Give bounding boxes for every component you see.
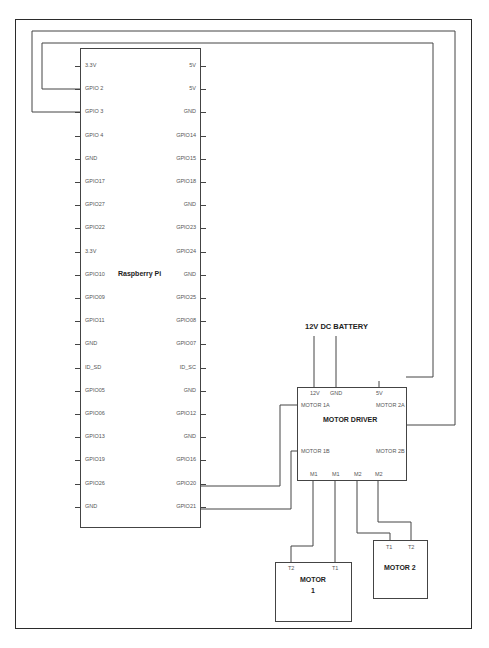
pi-left-pin-tick xyxy=(75,368,80,369)
motor2-terminal-t2: T2 xyxy=(408,545,414,551)
pi-left-pin: GPIO27 xyxy=(85,202,105,208)
pi-left-pin: GND xyxy=(85,504,97,510)
motor1-label-line1: MOTOR xyxy=(300,576,326,583)
md-pin-m2-a: M2 xyxy=(354,472,362,478)
pi-right-pin: GPIO18 xyxy=(176,179,196,185)
pi-left-pin-tick xyxy=(75,205,80,206)
pi-left-pin: GPIO19 xyxy=(85,457,105,463)
pi-left-pin: GPIO06 xyxy=(85,411,105,417)
pi-right-pin: GPIO21 xyxy=(176,504,196,510)
pi-right-pin: GPIO24 xyxy=(176,249,196,255)
pi-left-pin-tick xyxy=(75,507,80,508)
pi-right-pin-tick xyxy=(201,437,206,438)
battery-label: 12V DC BATTERY xyxy=(305,322,368,331)
pi-left-pin: GPIO17 xyxy=(85,179,105,185)
pi-left-pin-tick xyxy=(75,437,80,438)
pi-left-pin-tick xyxy=(75,136,80,137)
pi-left-pin-tick xyxy=(75,460,80,461)
pi-right-pin: GPIO16 xyxy=(176,457,196,463)
pi-left-pin-tick xyxy=(75,321,80,322)
pi-left-pin-tick xyxy=(75,228,80,229)
pi-left-pin-tick xyxy=(75,275,80,276)
raspberry-pi-label: Raspberry Pi xyxy=(118,270,161,277)
pi-left-pin: 3.3V xyxy=(85,63,96,69)
pi-right-pin: GND xyxy=(184,388,196,394)
pi-right-pin-tick xyxy=(201,368,206,369)
pi-right-pin-tick xyxy=(201,321,206,322)
md-pin-gnd: GND xyxy=(330,391,342,397)
pi-left-pin-tick xyxy=(75,89,80,90)
pi-right-pin: GND xyxy=(184,434,196,440)
pi-right-pin-tick xyxy=(201,414,206,415)
pi-right-pin-tick xyxy=(201,391,206,392)
pi-left-pin: GND xyxy=(85,341,97,347)
pi-right-pin-tick xyxy=(201,344,206,345)
md-pin-m1-b: M1 xyxy=(332,472,340,478)
pi-left-pin: GPIO 2 xyxy=(85,86,103,92)
motor1-terminal-t1: T1 xyxy=(332,566,338,572)
wire-m2-t1 xyxy=(357,480,390,540)
motor2-label: MOTOR 2 xyxy=(384,564,416,571)
pi-left-pin: GPIO13 xyxy=(85,434,105,440)
pi-left-pin-tick xyxy=(75,66,80,67)
pi-left-pin-tick xyxy=(75,252,80,253)
wire-gpio20-motor1a xyxy=(200,405,297,486)
pi-right-pin: 5V xyxy=(189,63,196,69)
pi-right-pin-tick xyxy=(201,460,206,461)
pi-right-pin: GND xyxy=(184,272,196,278)
md-pin-5v: 5V xyxy=(376,391,383,397)
pi-right-pin-tick xyxy=(201,252,206,253)
pi-left-pin: GPIO10 xyxy=(85,272,105,278)
pi-left-pin: GPIO11 xyxy=(85,318,104,324)
wire-m1-t2 xyxy=(291,480,313,562)
pi-left-pin-tick xyxy=(75,298,80,299)
md-pin-motor1b: MOTOR 1B xyxy=(301,449,330,455)
pi-right-pin: GPIO14 xyxy=(176,133,196,139)
pi-right-pin-tick xyxy=(201,182,206,183)
pi-right-pin-tick xyxy=(201,89,206,90)
wire-m2-t2 xyxy=(378,480,411,540)
pi-right-pin: GPIO23 xyxy=(176,225,196,231)
pi-right-pin-tick xyxy=(201,136,206,137)
pi-left-pin: GPIO26 xyxy=(85,481,105,487)
md-pin-m1-a: M1 xyxy=(310,472,318,478)
pi-right-pin-tick xyxy=(201,66,206,67)
pi-left-pin-tick xyxy=(75,414,80,415)
pi-left-pin-tick xyxy=(75,182,80,183)
pi-left-pin-tick xyxy=(75,344,80,345)
pi-right-pin: GND xyxy=(184,202,196,208)
pi-right-pin: ID_SC xyxy=(180,365,196,371)
pi-right-pin-tick xyxy=(201,112,206,113)
pi-left-pin: GPIO22 xyxy=(85,225,105,231)
pi-left-pin-tick xyxy=(75,391,80,392)
pi-left-pin: GPIO09 xyxy=(85,295,105,301)
pi-right-pin-tick xyxy=(201,507,206,508)
pi-right-pin: GND xyxy=(184,109,196,115)
wire-gpio21-motor1b xyxy=(200,451,297,509)
md-pin-m2-b: M2 xyxy=(375,472,383,478)
pi-right-pin-tick xyxy=(201,484,206,485)
pi-right-pin-tick xyxy=(201,298,206,299)
md-pin-motor2a: MOTOR 2A xyxy=(376,403,405,409)
motor2-terminal-t1: T1 xyxy=(386,545,392,551)
pi-left-pin: GPIO 3 xyxy=(85,109,103,115)
motor1-label-line2: 1 xyxy=(311,587,315,594)
motor-driver-label: MOTOR DRIVER xyxy=(323,416,377,423)
pi-right-pin: GPIO20 xyxy=(176,481,196,487)
motor1-terminal-t2: T2 xyxy=(288,566,294,572)
pi-left-pin: GND xyxy=(85,156,97,162)
pi-right-pin: GPIO12 xyxy=(176,411,196,417)
pi-right-pin: GPIO08 xyxy=(176,318,196,324)
pi-right-pin-tick xyxy=(201,228,206,229)
pi-left-pin-tick xyxy=(75,159,80,160)
md-pin-motor1a: MOTOR 1A xyxy=(301,403,330,409)
pi-left-pin-tick xyxy=(75,484,80,485)
pi-right-pin: 5V xyxy=(189,86,196,92)
pi-left-pin: ID_SD xyxy=(85,365,101,371)
pi-left-pin: GPIO05 xyxy=(85,388,105,394)
pi-right-pin: GPIO07 xyxy=(176,341,196,347)
pi-right-pin-tick xyxy=(201,205,206,206)
pi-left-pin: 3.3V xyxy=(85,249,96,255)
pi-left-pin: GPIO 4 xyxy=(85,133,103,139)
pi-left-pin-tick xyxy=(75,112,80,113)
